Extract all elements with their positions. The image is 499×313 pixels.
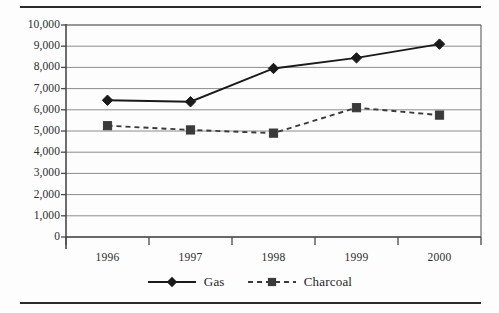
x-axis-tick-labels: 19961997199819992000 <box>0 0 499 313</box>
legend-label: Charcoal <box>304 274 353 290</box>
legend-swatch-gas <box>147 275 197 289</box>
line-chart: 01,0002,0003,0004,0005,0006,0007,0008,00… <box>0 0 499 313</box>
legend-item-charcoal: Charcoal <box>247 274 353 290</box>
figure-container: 01,0002,0003,0004,0005,0006,0007,0008,00… <box>0 0 499 313</box>
x-tick-label: 1999 <box>327 251 387 263</box>
x-tick-label: 1996 <box>78 251 138 263</box>
legend-label: Gas <box>204 274 225 290</box>
legend-marker-square <box>268 278 276 286</box>
x-tick-label: 1997 <box>161 251 221 263</box>
x-tick-label: 2000 <box>410 251 470 263</box>
legend-item-gas: Gas <box>147 274 225 290</box>
legend-swatch-charcoal <box>247 275 297 289</box>
legend-marker-diamond <box>167 277 177 287</box>
x-tick-label: 1998 <box>244 251 304 263</box>
chart-legend: GasCharcoal <box>0 274 499 290</box>
